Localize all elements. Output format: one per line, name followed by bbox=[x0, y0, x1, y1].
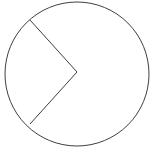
circle-outline bbox=[5, 2, 149, 146]
geometry-figure bbox=[0, 0, 159, 157]
wedge-chords bbox=[30, 20, 77, 124]
figure-canvas bbox=[0, 0, 159, 157]
